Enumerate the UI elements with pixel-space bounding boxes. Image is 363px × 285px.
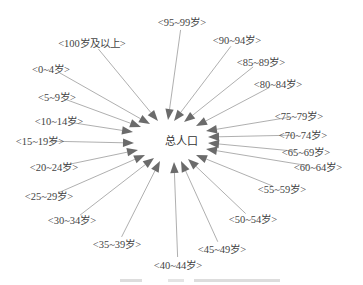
arrowhead-icon bbox=[143, 158, 154, 168]
edge-line bbox=[170, 30, 181, 109]
diagram-canvas: <95~99岁><90~94岁><85~89岁><80~84岁><75~79岁>… bbox=[0, 0, 363, 285]
edge-line bbox=[98, 49, 150, 112]
node-label: <50~54岁> bbox=[229, 213, 278, 225]
node-label: <35~39岁> bbox=[93, 238, 142, 250]
node-label: <45~49岁> bbox=[198, 243, 247, 255]
node-label: <100岁及以上> bbox=[58, 37, 126, 49]
edge-line bbox=[193, 67, 253, 115]
edge-line bbox=[80, 165, 145, 216]
node-label: <30~34岁> bbox=[48, 214, 97, 226]
node-label: <15~19岁> bbox=[16, 135, 65, 147]
arrowhead-icon bbox=[208, 140, 219, 148]
edge-line bbox=[206, 88, 269, 121]
arrowhead-icon bbox=[206, 125, 218, 133]
node-label: <65~69岁> bbox=[282, 146, 331, 158]
node-label: <10~14岁> bbox=[35, 115, 84, 127]
arrowhead-icon bbox=[148, 110, 158, 121]
node-label: <90~94岁> bbox=[213, 34, 262, 46]
node-label: <5~9岁> bbox=[38, 91, 76, 103]
center-node-label: 总人口 bbox=[165, 134, 198, 148]
arrowhead-icon bbox=[206, 147, 218, 155]
arrowhead-icon bbox=[174, 110, 184, 121]
arrowhead-icon bbox=[129, 119, 141, 127]
node-label: <55~59岁> bbox=[258, 183, 307, 195]
node-label: <95~99岁> bbox=[158, 16, 207, 28]
edge-line bbox=[174, 173, 177, 257]
node-label: <75~79岁> bbox=[275, 110, 324, 122]
node-label: <60~64岁> bbox=[294, 161, 343, 173]
edge-line bbox=[186, 171, 218, 242]
node-label: <20~24岁> bbox=[30, 161, 79, 173]
arrowhead-icon bbox=[196, 155, 208, 163]
arrowhead-icon bbox=[123, 139, 134, 147]
edge-line bbox=[196, 166, 246, 213]
arrowhead-icon bbox=[196, 117, 208, 126]
arrowhead-icon bbox=[138, 115, 150, 124]
arrowhead-icon bbox=[151, 161, 160, 173]
node-label: <80~84岁> bbox=[254, 78, 303, 90]
arrowhead-icon bbox=[184, 112, 195, 122]
figure-caption-cropped bbox=[120, 276, 280, 285]
edge-line bbox=[122, 171, 155, 237]
arrowhead-icon bbox=[170, 162, 178, 173]
arrowhead-icon bbox=[181, 161, 189, 173]
edge-line bbox=[206, 159, 272, 186]
node-label: <85~89岁> bbox=[237, 56, 286, 68]
edge-line bbox=[181, 46, 231, 112]
node-label: <70~74岁> bbox=[279, 129, 328, 141]
arrowhead-icon bbox=[165, 109, 173, 120]
arrowhead-icon bbox=[122, 126, 133, 134]
arrowhead-icon bbox=[208, 133, 219, 141]
arrowhead-icon bbox=[126, 148, 138, 156]
node-label: <25~29岁> bbox=[25, 190, 74, 202]
node-label: <40~44岁> bbox=[154, 259, 203, 271]
radial-diagram: <95~99岁><90~94岁><85~89岁><80~84岁><75~79岁>… bbox=[0, 0, 363, 285]
node-label: <0~4岁> bbox=[32, 63, 70, 75]
